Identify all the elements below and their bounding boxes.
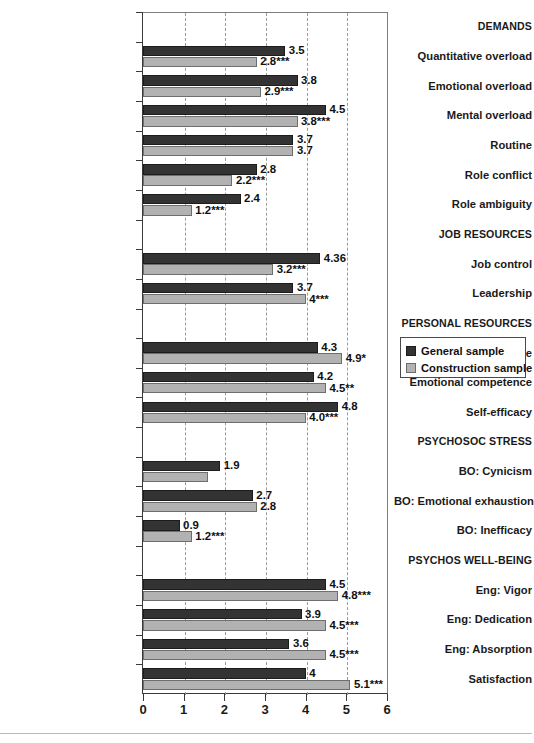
row-label: Mental overload [394, 109, 532, 121]
x-axis-label: 3 [250, 702, 280, 717]
bar-value-general: 3.7 [297, 282, 313, 293]
row-label: Leadership [394, 287, 532, 299]
legend-label-construction: Construction sample [421, 362, 532, 374]
y-axis-tick [136, 575, 143, 576]
y-axis-tick [136, 220, 143, 221]
bar-value-construction: 2.8*** [260, 56, 289, 67]
y-axis-tick [136, 546, 143, 547]
y-axis-tick [136, 160, 143, 161]
bar-general-sample [143, 668, 306, 678]
bar-construction-sample [143, 650, 326, 660]
y-axis-tick [136, 42, 143, 43]
y-axis-tick [136, 249, 143, 250]
x-axis-label: 5 [331, 702, 361, 717]
bar-value-general: 4.2 [317, 371, 333, 382]
bar-value-general: 4.5 [330, 104, 346, 115]
bar-value-general: 4 [309, 668, 315, 679]
x-axis-label: 2 [209, 702, 239, 717]
bar-value-construction: 5.1*** [354, 679, 383, 690]
y-axis-tick [136, 71, 143, 72]
bar-construction-sample [143, 205, 192, 215]
bar-value-construction: 3.2*** [277, 264, 306, 275]
bar-value-construction: 3.7 [297, 145, 313, 156]
category-header-label: PSYCHOSOC STRESS [394, 435, 532, 447]
bar-value-construction: 4.5*** [330, 620, 359, 631]
bar-value-construction: 2.2*** [236, 175, 265, 186]
category-header-label: DEMANDS [394, 20, 532, 32]
bar-value-construction: 3.8*** [301, 116, 330, 127]
y-axis-tick [136, 457, 143, 458]
row-label: Role ambiguity [394, 198, 532, 210]
y-axis-tick [136, 12, 143, 13]
y-axis-tick [136, 279, 143, 280]
bar-general-sample [143, 520, 180, 530]
category-header-label: PERSONAL RESOURCES [394, 317, 532, 329]
row-label: Quantitative overload [394, 50, 532, 62]
bar-construction-sample [143, 502, 257, 512]
y-axis-tick [136, 131, 143, 132]
legend-item-construction: Construction sample [406, 359, 520, 376]
bar-general-sample [143, 194, 241, 204]
bar-construction-sample [143, 531, 192, 541]
bar-construction-sample [143, 472, 208, 482]
row-label: BO: Inefficacy [394, 524, 532, 536]
bar-general-sample [143, 105, 326, 115]
bar-construction-sample [143, 620, 326, 630]
x-axis-tick [265, 694, 266, 701]
y-axis-tick [136, 101, 143, 102]
y-axis-tick [136, 309, 143, 310]
row-label: Eng: Absorption [394, 643, 532, 655]
row-label: Role conflict [394, 169, 532, 181]
x-axis-label: 4 [291, 702, 321, 717]
bar-value-construction: 2.8 [260, 501, 276, 512]
legend-swatch-general-icon [406, 346, 416, 356]
bar-value-construction: 2.9*** [264, 86, 293, 97]
bar-construction-sample [143, 591, 338, 601]
bar-construction-sample [143, 413, 306, 423]
bar-general-sample [143, 135, 293, 145]
bar-value-general: 0.9 [183, 520, 199, 531]
bar-value-general: 3.8 [301, 75, 317, 86]
bar-general-sample [143, 283, 293, 293]
bar-value-general: 3.9 [305, 609, 321, 620]
bar-value-construction: 4.8*** [342, 590, 371, 601]
bar-construction-sample [143, 57, 257, 67]
legend-label-general: General sample [421, 345, 504, 357]
category-header-label: PSYCHOS WELL-BEING [394, 554, 532, 566]
x-axis-tick [387, 694, 388, 701]
bar-value-construction: 4.5*** [330, 649, 359, 660]
y-axis-tick [136, 397, 143, 398]
y-axis-tick [136, 664, 143, 665]
bar-general-sample [143, 579, 326, 589]
y-axis-tick [136, 635, 143, 636]
bar-construction-sample [143, 116, 298, 126]
row-label: BO: Emotional exhaustion [394, 495, 532, 507]
bar-general-sample [143, 609, 302, 619]
bar-general-sample [143, 461, 220, 471]
bar-general-sample [143, 639, 289, 649]
row-label: Self-efficacy [394, 406, 532, 418]
bar-construction-sample [143, 175, 232, 185]
legend-swatch-construction-icon [406, 363, 416, 373]
y-axis-tick [136, 427, 143, 428]
bar-value-construction: 4.9* [346, 353, 366, 364]
x-axis-label: 1 [169, 702, 199, 717]
y-axis-tick [136, 605, 143, 606]
category-header-label: JOB RESOURCES [394, 228, 532, 240]
x-axis-tick [346, 694, 347, 701]
bar-construction-sample [143, 680, 350, 690]
row-label: Eng: Vigor [394, 584, 532, 596]
row-label: Eng: Dedication [394, 613, 532, 625]
bar-value-general: 4.8 [342, 401, 358, 412]
bar-construction-sample [143, 146, 293, 156]
bar-construction-sample [143, 87, 261, 97]
bar-value-construction: 1.2*** [195, 205, 224, 216]
bar-construction-sample [143, 383, 326, 393]
y-axis-tick [136, 486, 143, 487]
x-axis-tick [306, 694, 307, 701]
bar-construction-sample [143, 294, 306, 304]
bar-value-general: 2.4 [244, 193, 260, 204]
bar-value-general: 3.6 [293, 638, 309, 649]
bar-general-sample [143, 372, 314, 382]
